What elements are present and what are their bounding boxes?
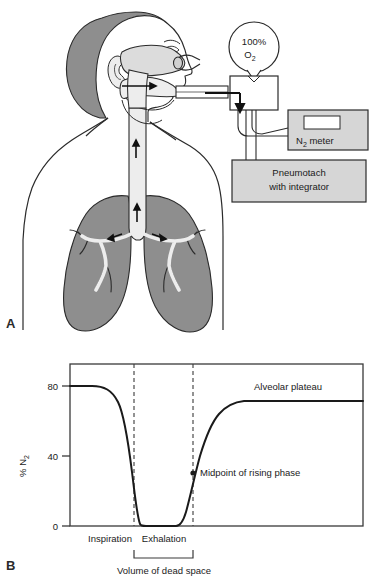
y-axis-ticks — [62, 386, 70, 526]
annotation-alveolar-plateau: Alveolar plateau — [254, 381, 322, 392]
panel-a-apparatus-diagram: 100% O2 N2 meter Pneumotach with integra… — [0, 0, 378, 340]
phase-label-exhalation: Exhalation — [142, 533, 186, 544]
panel-label-a: A — [6, 316, 16, 331]
chart-svg: 80 40 0 % N2 Alveolar plateau Midpoint o… — [0, 340, 378, 587]
pneumotach-label-line1: Pneumotach — [272, 167, 325, 178]
phase-label-inspiration: Inspiration — [88, 533, 132, 544]
left-lung — [64, 196, 131, 331]
panel-b-nitrogen-washout-chart: 80 40 0 % N2 Alveolar plateau Midpoint o… — [0, 340, 378, 587]
annotation-midpoint-of-rising-phase: Midpoint of rising phase — [200, 467, 300, 478]
panel-label-b: B — [6, 558, 16, 573]
gas-reservoir-balloon — [229, 22, 279, 80]
eyebrow — [164, 40, 180, 44]
dead-space-bracket — [134, 550, 193, 558]
right-lung — [144, 196, 212, 332]
pharynx-passage — [128, 70, 149, 108]
y-axis-title: % N2 — [17, 455, 30, 477]
midpoint-marker-dot — [190, 470, 195, 475]
meter-display-icon — [304, 116, 340, 129]
y-tick-label-0: 0 — [53, 521, 58, 532]
tubing-lines — [238, 110, 288, 160]
y-tick-label-40: 40 — [47, 451, 58, 462]
pneumotach-label-line2: with integrator — [268, 181, 329, 192]
gas-source-label-line1: 100% — [242, 36, 267, 47]
apparatus-svg: 100% O2 N2 meter Pneumotach with integra… — [0, 0, 378, 340]
bracket-label-volume-of-dead-space: Volume of dead space — [117, 565, 211, 576]
y-tick-label-80: 80 — [47, 381, 58, 392]
